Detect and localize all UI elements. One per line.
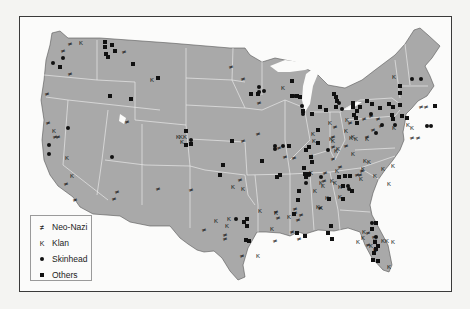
neo-nazi-marker: ≠ xyxy=(365,241,370,248)
others-marker xyxy=(230,139,234,143)
neo-nazi-marker: ≠ xyxy=(330,143,335,150)
others-marker xyxy=(318,105,322,109)
neo-nazi-marker: ≠ xyxy=(370,126,375,133)
skinhead-marker xyxy=(410,77,414,81)
skinhead-marker xyxy=(47,152,51,156)
klan-marker: K xyxy=(391,239,395,245)
others-marker xyxy=(113,49,117,53)
skinhead-marker xyxy=(257,90,261,94)
neo-nazi-marker: ≠ xyxy=(67,70,72,77)
neo-nazi-marker: ≠ xyxy=(317,204,322,211)
klan-marker: K xyxy=(214,218,218,224)
others-marker xyxy=(58,65,62,69)
others-marker xyxy=(348,174,352,178)
skinhead-marker xyxy=(281,144,285,148)
klan-marker: K xyxy=(373,173,377,179)
others-marker xyxy=(218,173,222,177)
legend-item-klan: K Klan xyxy=(35,235,91,251)
neo-nazi-marker: ≠ xyxy=(308,152,313,159)
others-marker xyxy=(297,189,301,193)
klan-marker: K xyxy=(385,238,389,244)
neo-nazi-marker: ≠ xyxy=(188,186,193,193)
others-marker xyxy=(103,40,107,44)
klan-marker: K xyxy=(328,120,332,126)
others-marker xyxy=(245,217,249,221)
others-marker xyxy=(129,97,133,101)
others-marker xyxy=(433,104,437,108)
others-marker xyxy=(329,224,333,228)
others-marker xyxy=(371,258,375,262)
klan-marker: K xyxy=(344,128,348,134)
others-marker xyxy=(391,105,395,109)
others-marker xyxy=(303,234,307,238)
others-marker xyxy=(156,76,160,80)
klan-marker: K xyxy=(70,173,74,179)
klan-marker: K xyxy=(65,155,69,161)
klan-marker: K xyxy=(381,166,385,172)
others-marker xyxy=(189,142,193,146)
klan-marker: K xyxy=(361,235,365,241)
neo-nazi-marker: ≠ xyxy=(423,103,428,110)
others-marker xyxy=(376,259,380,263)
others-marker xyxy=(390,113,394,117)
klan-marker: K xyxy=(391,163,395,169)
others-marker xyxy=(398,91,402,95)
klan-marker: K xyxy=(373,247,377,253)
neo-nazi-marker: ≠ xyxy=(371,233,376,240)
klan-marker: K xyxy=(392,125,396,131)
skinhead-marker xyxy=(189,138,193,142)
neo-nazi-marker: ≠ xyxy=(298,211,303,218)
klan-marker: K xyxy=(392,74,396,80)
neo-nazi-marker: ≠ xyxy=(289,228,294,235)
others-marker xyxy=(355,109,359,113)
others-marker xyxy=(106,55,110,59)
skinhead-marker xyxy=(110,155,114,159)
neo-nazi-marker: ≠ xyxy=(60,47,65,54)
others-marker xyxy=(398,84,402,88)
others-marker xyxy=(290,79,294,83)
others-marker xyxy=(374,221,378,225)
neo-nazi-marker: ≠ xyxy=(291,154,296,161)
klan-marker: K xyxy=(367,159,371,165)
others-marker xyxy=(355,121,359,125)
neo-nazi-marker: ≠ xyxy=(45,119,50,126)
others-marker xyxy=(103,45,107,49)
klan-marker: K xyxy=(225,223,229,229)
others-marker xyxy=(296,198,300,202)
others-marker xyxy=(405,116,409,120)
neo-nazi-marker: ≠ xyxy=(72,196,77,203)
map-legend: ≠ Neo-Nazi K Klan Skinhead Others xyxy=(30,215,92,281)
skinhead-marker xyxy=(262,89,266,93)
neo-nazi-marker: ≠ xyxy=(364,133,369,140)
skinhead-marker xyxy=(340,107,344,111)
klan-marker: K xyxy=(287,214,291,220)
skinhead-marker xyxy=(66,126,70,130)
others-marker xyxy=(184,129,188,133)
klan-marker: K xyxy=(227,216,231,222)
neo-nazi-marker: ≠ xyxy=(330,133,335,140)
skinhead-marker xyxy=(326,148,330,152)
others-marker xyxy=(310,112,314,116)
klan-marker: K xyxy=(338,194,342,200)
others-marker xyxy=(351,101,355,105)
others-marker xyxy=(400,114,404,118)
others-marker xyxy=(391,117,395,121)
klan-marker: K xyxy=(330,178,334,184)
neo-nazi-marker: ≠ xyxy=(124,118,129,125)
neo-nazi-marker: ≠ xyxy=(255,130,260,137)
neo-nazi-marker: ≠ xyxy=(368,112,373,119)
others-marker xyxy=(131,62,135,66)
neo-nazi-marker: ≠ xyxy=(322,169,327,176)
skinhead-marker xyxy=(47,143,51,147)
neo-nazi-marker: ≠ xyxy=(365,229,370,236)
neo-nazi-marker: ≠ xyxy=(343,142,348,149)
neo-nazi-marker: ≠ xyxy=(347,119,352,126)
others-marker xyxy=(351,105,355,109)
neo-nazi-marker: ≠ xyxy=(222,235,227,242)
filled-circle-icon xyxy=(40,257,44,261)
klan-marker: K xyxy=(270,226,274,232)
klan-marker: K xyxy=(180,139,184,145)
neo-nazi-marker: ≠ xyxy=(337,163,342,170)
others-marker xyxy=(278,173,282,177)
neo-nazi-marker: ≠ xyxy=(63,180,68,187)
